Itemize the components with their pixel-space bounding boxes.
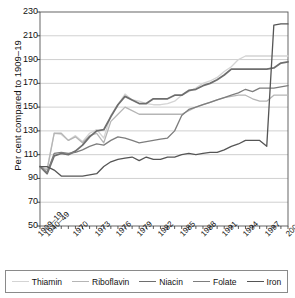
chart-legend: ThiaminRiboflavinNiacinFolateIron [5,270,288,293]
chart-plot-container: Per cent compared to 1909–19 23021019017… [0,0,295,265]
legend-label: Folate [213,277,237,287]
series-line-niacin [40,62,288,174]
legend-item-folate[interactable]: Folate [188,277,242,287]
plot-frame [40,12,288,226]
legend-label: Iron [267,277,282,287]
legend-swatch-iron-icon [247,281,264,282]
chart-figure: Per cent compared to 1909–19 23021019017… [0,0,295,298]
legend-item-riboflavin[interactable]: Riboflavin [67,277,134,287]
legend-label: Riboflavin [92,277,129,287]
legend-label: Niacin [159,277,183,287]
legend-swatch-riboflavin-icon [72,281,89,282]
legend-item-iron[interactable]: Iron [242,277,287,287]
legend-swatch-niacin-icon [139,281,156,282]
legend-swatch-folate-icon [193,281,210,282]
legend-item-thiamin[interactable]: Thiamin [7,277,67,287]
legend-item-niacin[interactable]: Niacin [134,277,188,287]
legend-label: Thiamin [32,277,62,287]
legend-swatch-thiamin-icon [12,281,29,282]
series-line-iron [40,24,288,176]
